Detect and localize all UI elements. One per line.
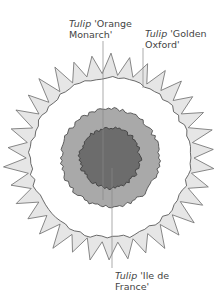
label-cultivar: 'Golden bbox=[170, 28, 206, 39]
label-genus: Tulip bbox=[145, 28, 167, 39]
label-cultivar: Oxford' bbox=[145, 39, 180, 50]
label-cultivar: 'Ile de bbox=[140, 270, 169, 281]
label-orange-monarch: Tulip 'Orange Monarch' bbox=[69, 18, 132, 40]
label-genus: Tulip bbox=[115, 270, 137, 281]
label-cultivar: Monarch' bbox=[69, 29, 112, 40]
label-golden-oxford: Tulip 'Golden Oxford' bbox=[145, 28, 207, 50]
label-cultivar: 'Orange bbox=[94, 18, 132, 29]
label-ile-de-france: Tulip 'Ile de France' bbox=[115, 270, 169, 292]
label-genus: Tulip bbox=[69, 18, 91, 29]
label-cultivar: France' bbox=[115, 281, 149, 292]
